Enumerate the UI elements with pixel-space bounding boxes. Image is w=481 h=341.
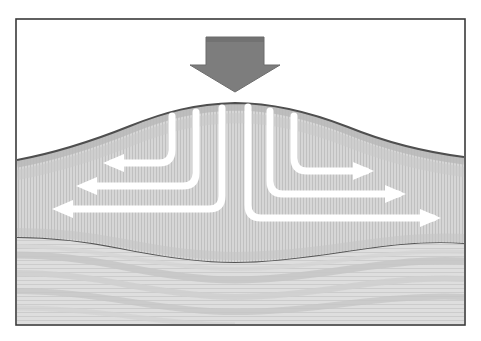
cross-section-diagram bbox=[0, 0, 481, 341]
diagram-root: Subsurface deformation flow under a vert… bbox=[0, 0, 481, 341]
load-arrow-top-shade bbox=[206, 37, 264, 42]
